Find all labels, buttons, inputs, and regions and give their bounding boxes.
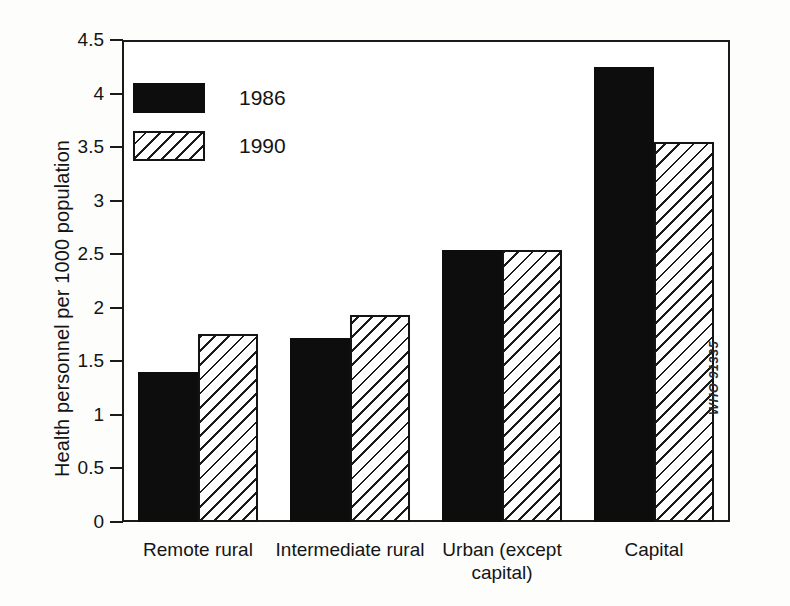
x-label-line-2: capital) xyxy=(407,561,597,584)
x-label-4: Capital xyxy=(559,538,749,561)
who-watermark: WHO 91335 xyxy=(707,341,721,415)
x-label-line-1: Capital xyxy=(559,538,749,561)
legend-entry-1986: 1986 xyxy=(133,78,343,118)
y-tick-label: 3 xyxy=(34,190,104,212)
legend-label-1990: 1990 xyxy=(239,134,286,158)
bar-1986-4 xyxy=(594,67,654,522)
chart-figure: Health personnel per 1000 population 4.5… xyxy=(0,0,790,606)
legend-swatch-1986 xyxy=(133,83,205,113)
legend-swatch-1990 xyxy=(133,131,205,161)
bar-1986-3 xyxy=(442,250,502,522)
y-tick-label: 3.5 xyxy=(34,136,104,158)
y-tick-label: 0.5 xyxy=(34,457,104,479)
bar-1990-1 xyxy=(198,334,258,523)
y-tick-label: 4 xyxy=(34,83,104,105)
y-tick-label: 4.5 xyxy=(34,29,104,51)
legend-label-1986: 1986 xyxy=(239,86,286,110)
bar-1990-4 xyxy=(654,142,714,522)
y-tick-label: 0 xyxy=(34,511,104,533)
chart-legend: 1986 1990 xyxy=(133,78,343,174)
bar-1990-2 xyxy=(350,315,410,522)
legend-entry-1990: 1990 xyxy=(133,126,343,166)
y-tick-label: 2 xyxy=(34,297,104,319)
bar-1986-2 xyxy=(290,338,350,522)
y-tick-label: 1.5 xyxy=(34,350,104,372)
bar-1990-3 xyxy=(502,250,562,522)
y-tick-label: 1 xyxy=(34,404,104,426)
y-tick-label: 2.5 xyxy=(34,243,104,265)
bar-1986-1 xyxy=(138,372,198,522)
